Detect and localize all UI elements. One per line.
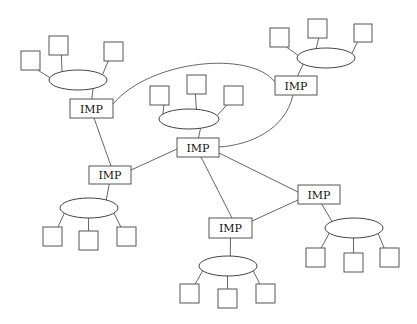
lan-to-imp-link <box>92 88 93 99</box>
imp-top-left: IMP <box>70 99 113 118</box>
imp-label: IMP <box>219 222 243 235</box>
host-box <box>256 284 275 303</box>
host-link <box>352 42 358 53</box>
host-link <box>253 271 260 284</box>
imp-mid-left: IMP <box>89 166 131 184</box>
imp-label: IMP <box>307 189 331 202</box>
lan-to-imp-link <box>298 63 304 76</box>
host-box <box>43 227 62 246</box>
imp-right: IMP <box>298 185 340 204</box>
imp-label: IMP <box>284 80 308 93</box>
host-link <box>114 213 121 227</box>
host-box <box>344 253 363 272</box>
imp-label: IMP <box>80 103 104 116</box>
host-box <box>354 24 372 42</box>
lan-mid-left <box>43 184 136 250</box>
host-link <box>163 105 164 114</box>
lan-ellipse <box>199 256 257 276</box>
local-networks <box>21 19 399 308</box>
lan-ellipse <box>60 198 118 218</box>
host-link <box>316 38 319 49</box>
host-box <box>308 19 327 38</box>
host-box <box>380 248 399 267</box>
lan-top-left <box>21 36 123 99</box>
host-box <box>104 42 123 61</box>
host-box <box>218 289 237 308</box>
lan-bottom <box>180 238 275 308</box>
host-link <box>217 105 227 116</box>
host-box <box>79 231 98 250</box>
imp-link <box>131 149 177 170</box>
lan-ellipse <box>325 218 383 238</box>
imp-label: IMP <box>98 169 122 182</box>
lan-to-imp-link <box>322 204 333 222</box>
lan-right <box>306 204 399 272</box>
host-box <box>306 248 325 267</box>
host-box <box>49 36 68 55</box>
host-link <box>103 61 109 75</box>
host-link <box>38 70 50 78</box>
imp-top-right: IMP <box>275 76 317 95</box>
lan-center <box>150 75 243 138</box>
host-box <box>117 227 136 246</box>
host-link <box>286 47 298 55</box>
imp-link <box>201 157 232 218</box>
imp-link <box>219 153 298 192</box>
host-box <box>270 28 289 47</box>
lan-top-right <box>270 19 372 76</box>
host-box <box>187 75 206 94</box>
lan-ellipse <box>159 109 219 129</box>
host-link <box>61 55 62 72</box>
host-box <box>150 86 169 105</box>
imp-center: IMP <box>177 138 219 157</box>
host-link <box>195 271 202 284</box>
imp-link <box>252 200 298 221</box>
lan-ellipse <box>49 70 107 90</box>
host-link <box>378 234 384 248</box>
imp-bottom: IMP <box>209 218 252 238</box>
host-link <box>321 233 329 248</box>
lan-to-imp-link <box>106 184 109 200</box>
imp-link <box>94 118 111 166</box>
lan-ellipse <box>297 48 355 68</box>
host-box <box>224 86 243 105</box>
host-link <box>58 213 64 227</box>
host-box <box>180 284 199 303</box>
network-diagram: IMPIMPIMPIMPIMPIMP <box>0 0 417 324</box>
host-link <box>195 94 196 109</box>
lan-to-imp-link <box>199 128 201 138</box>
imp-label: IMP <box>186 142 210 155</box>
host-box <box>21 51 40 70</box>
